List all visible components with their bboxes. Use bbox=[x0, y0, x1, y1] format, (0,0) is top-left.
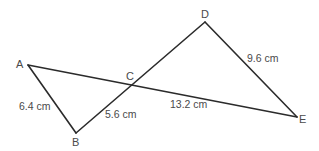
segment-ae bbox=[28, 65, 297, 117]
measurement-de: 9.6 cm bbox=[247, 52, 279, 64]
segment-de bbox=[205, 22, 297, 117]
segment-ab bbox=[28, 65, 76, 133]
vertex-label-b: B bbox=[72, 136, 79, 148]
vertex-label-d: D bbox=[201, 8, 209, 20]
measurement-bc: 5.6 cm bbox=[105, 108, 137, 120]
measurement-ab: 6.4 cm bbox=[19, 100, 51, 112]
vertex-label-e: E bbox=[299, 113, 306, 125]
measurement-ce: 13.2 cm bbox=[170, 98, 208, 110]
geometry-diagram: A B C D E 6.4 cm 5.6 cm 13.2 cm 9.6 cm bbox=[0, 0, 319, 151]
vertex-label-a: A bbox=[16, 58, 24, 70]
vertex-label-c: C bbox=[126, 70, 134, 82]
